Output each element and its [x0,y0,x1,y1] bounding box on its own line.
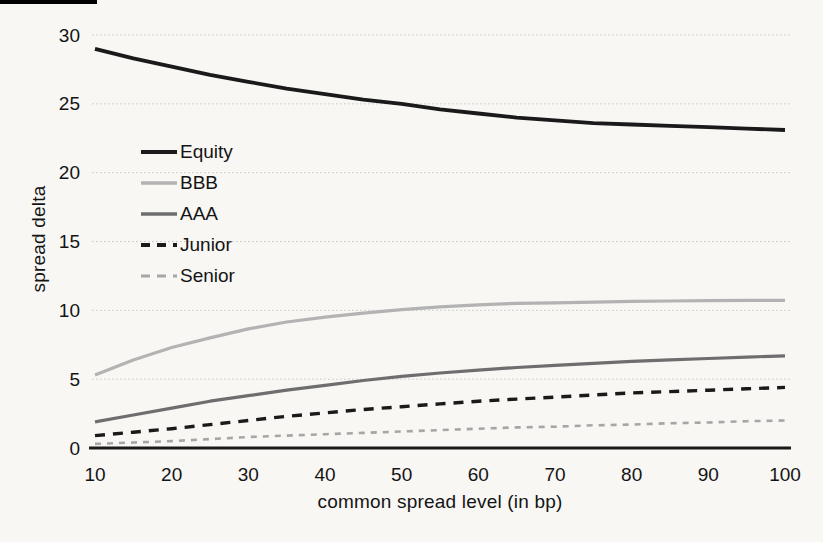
y-axis-title: spread delta [28,186,50,293]
legend-item-junior: Junior [141,229,235,260]
y-tick-label: 0 [69,438,80,459]
legend-label: Senior [180,265,235,287]
y-tick-label: 10 [59,300,80,321]
legend-item-aaa: AAA [141,199,235,230]
scanned-chart-page: 051015202530102030405060708090100 spread… [0,0,823,542]
legend-line-sample-aaa [141,209,177,219]
legend: EquityBBBAAAJuniorSenior [141,137,235,291]
legend-line-sample-equity [141,147,177,157]
series-line-bbb [95,300,785,375]
legend-line-sample-senior [141,271,177,281]
y-tick-labels: 051015202530 [59,25,80,459]
series-line-aaa [95,356,785,422]
x-tick-label: 40 [314,464,335,485]
x-tick-label: 80 [621,464,642,485]
y-tick-label: 25 [59,93,80,114]
legend-item-bbb: BBB [141,168,235,199]
x-tick-label: 10 [84,464,105,485]
y-tick-label: 20 [59,162,80,183]
legend-label: Equity [180,141,233,163]
series-line-equity [95,49,785,130]
legend-label: AAA [180,203,218,225]
legend-label: BBB [180,172,218,194]
x-tick-label: 90 [698,464,719,485]
x-tick-label: 100 [769,464,801,485]
y-tick-label: 5 [69,369,80,390]
x-tick-label: 20 [161,464,182,485]
line-chart-plot: 051015202530102030405060708090100 [0,0,823,542]
x-tick-labels: 102030405060708090100 [84,464,800,485]
legend-item-equity: Equity [141,137,235,168]
series-line-senior [95,421,785,444]
y-tick-label: 15 [59,231,80,252]
x-axis-title: common spread level (in bp) [95,491,785,513]
x-tick-label: 60 [468,464,489,485]
x-tick-label: 30 [238,464,259,485]
legend-item-senior: Senior [141,260,235,291]
series-line-junior [95,387,785,435]
y-tick-label: 30 [59,25,80,46]
x-tick-label: 50 [391,464,412,485]
legend-line-sample-junior [141,240,177,250]
x-tick-label: 70 [544,464,565,485]
legend-label: Junior [180,234,232,256]
legend-line-sample-bbb [141,178,177,188]
